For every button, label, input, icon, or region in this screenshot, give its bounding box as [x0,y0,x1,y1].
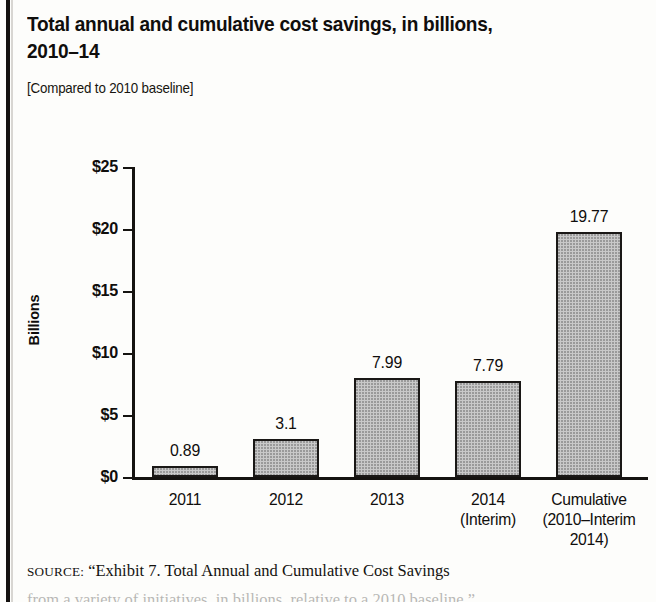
x-axis-category-line: 2012 [228,489,344,509]
y-axis-tick [123,415,133,417]
y-axis-tick-label: $10 [59,343,118,363]
source-note-clipped: from a variety of initiatives, in billio… [27,589,627,602]
x-axis-category-line: 2013 [329,489,445,509]
y-axis-title: Billions [26,282,42,358]
source-note: SOURCE: “Exhibit 7. Total Annual and Cum… [27,560,627,582]
x-axis-category-label: 2011 [127,489,243,509]
x-axis-category-line: (2010–Interim [531,509,647,529]
bar-chart: Billions $0$5$10$15$20$250.8920113.12012… [0,0,656,602]
x-axis-category-label: Cumulative(2010–Interim2014) [531,489,647,549]
x-axis-category-label: 2014(Interim) [430,489,546,529]
x-axis-category-line: Cumulative [531,489,647,509]
y-axis-tick [123,291,133,293]
bar [354,378,420,477]
x-axis-category-label: 2012 [228,489,344,509]
y-axis-tick-label: $25 [59,157,118,177]
bar-value-label: 0.89 [132,441,238,460]
source-label: SOURCE: [27,564,84,579]
x-axis-category-line: 2014 [430,489,546,509]
bar [152,466,218,477]
y-axis-tick-label: $5 [59,405,118,425]
source-text: “Exhibit 7. Total Annual and Cumulative … [88,561,450,580]
x-axis-category-line: 2014) [531,529,647,549]
y-axis-title-wrap: Billions [22,290,44,360]
y-axis-tick-label: $20 [59,219,118,239]
y-axis-tick [123,167,133,169]
y-axis-tick-label: $0 [59,467,118,487]
bar-value-label: 3.1 [233,414,339,433]
x-axis-category-label: 2013 [329,489,445,509]
y-axis-line [132,167,135,479]
bar-value-label: 7.79 [435,356,541,375]
y-axis-tick [123,477,133,479]
bar [455,381,521,478]
x-axis-category-line: (Interim) [430,509,546,529]
bar-value-label: 7.99 [334,353,440,372]
bar [556,232,622,477]
y-axis-tick-label: $15 [59,281,118,301]
y-axis-tick [123,229,133,231]
bar-value-label: 19.77 [536,207,642,226]
bar [253,439,319,477]
y-axis-tick [123,353,133,355]
x-axis-category-line: 2011 [127,489,243,509]
figure-page: Total annual and cumulative cost savings… [0,0,656,602]
